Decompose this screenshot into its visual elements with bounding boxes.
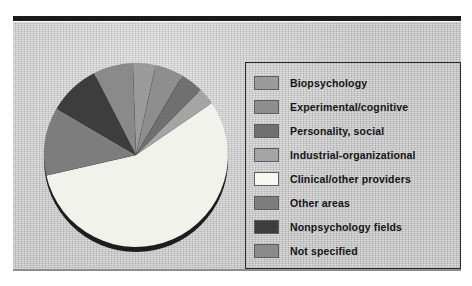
legend-item-industrial-organizational[interactable]: Industrial-organizational <box>254 143 460 167</box>
legend-swatch-icon <box>254 196 279 210</box>
figure-container: Biopsychology Experimental/cognitive Per… <box>0 0 472 286</box>
legend-item-label: Experimental/cognitive <box>290 102 408 113</box>
top-rule-divider <box>13 16 461 21</box>
legend-item-label: Not specified <box>290 246 358 257</box>
pie-chart-svg <box>37 56 235 254</box>
legend-item-clinical-other-providers[interactable]: Clinical/other providers <box>254 167 460 191</box>
pie-slice-group <box>44 63 228 247</box>
legend-item-label: Personality, social <box>290 126 384 137</box>
legend-swatch-icon <box>254 76 279 90</box>
legend-item-label: Other areas <box>290 198 350 209</box>
legend-item-label: Nonpsychology fields <box>290 222 402 233</box>
legend-swatch-icon <box>254 124 279 138</box>
legend-swatch-icon <box>254 148 279 162</box>
legend-item-personality-social[interactable]: Personality, social <box>254 119 460 143</box>
pie-chart <box>37 56 235 254</box>
legend-swatch-icon <box>254 244 279 258</box>
legend-item-nonpsychology-fields[interactable]: Nonpsychology fields <box>254 215 460 239</box>
legend-swatch-icon <box>254 220 279 234</box>
chart-panel-background: Biopsychology Experimental/cognitive Per… <box>13 22 461 269</box>
legend-swatch-icon <box>254 172 279 186</box>
legend-item-experimental-cognitive[interactable]: Experimental/cognitive <box>254 95 460 119</box>
legend-item-biopsychology[interactable]: Biopsychology <box>254 71 460 95</box>
legend-item-label: Clinical/other providers <box>290 174 411 185</box>
legend-box: Biopsychology Experimental/cognitive Per… <box>245 62 461 269</box>
legend-item-other-areas[interactable]: Other areas <box>254 191 460 215</box>
legend-item-label: Biopsychology <box>290 78 367 89</box>
bottom-rule-divider <box>13 269 461 271</box>
legend-item-label: Industrial-organizational <box>290 150 416 161</box>
legend-item-not-specified[interactable]: Not specified <box>254 239 460 263</box>
legend-swatch-icon <box>254 100 279 114</box>
